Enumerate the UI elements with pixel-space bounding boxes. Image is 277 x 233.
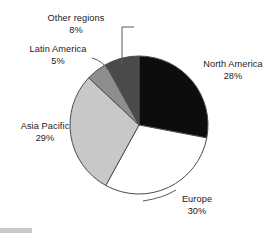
pie-label-latin-america-name: Latin America bbox=[10, 44, 106, 56]
pie-label-asia-pacific-value: 29% bbox=[4, 133, 86, 145]
pie-label-north-america: North America 28% bbox=[190, 59, 276, 82]
pie-label-europe-value: 30% bbox=[162, 206, 232, 218]
pie-label-latin-america: Latin America 5% bbox=[10, 44, 106, 67]
pie-slices bbox=[70, 56, 208, 194]
pie-label-latin-america-value: 5% bbox=[10, 56, 106, 68]
pie-label-other-regions-name: Other regions bbox=[28, 13, 124, 25]
pie-label-other-regions-value: 8% bbox=[28, 25, 124, 37]
pie-label-north-america-value: 28% bbox=[190, 71, 276, 83]
pie-label-europe-name: Europe bbox=[162, 194, 232, 206]
pie-label-other-regions: Other regions 8% bbox=[28, 13, 124, 36]
scan-edge-artifact bbox=[0, 228, 32, 233]
pie-chart-figure: Other regions 8% Latin America 5% Asia P… bbox=[0, 0, 277, 233]
pie-label-asia-pacific: Asia Pacific 29% bbox=[4, 121, 86, 144]
pie-label-asia-pacific-name: Asia Pacific bbox=[4, 121, 86, 133]
pie-label-europe: Europe 30% bbox=[162, 194, 232, 217]
pie-label-north-america-name: North America bbox=[190, 59, 276, 71]
